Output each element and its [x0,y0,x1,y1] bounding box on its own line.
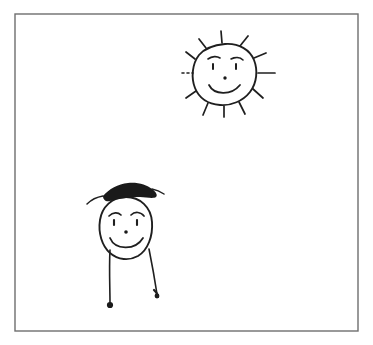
sun-ray-north [221,31,222,43]
drawing-surface [0,0,373,345]
person-nose [124,230,128,234]
sun-nose [223,76,226,79]
person-foot-left [107,302,113,308]
drawing-canvas [0,0,373,345]
